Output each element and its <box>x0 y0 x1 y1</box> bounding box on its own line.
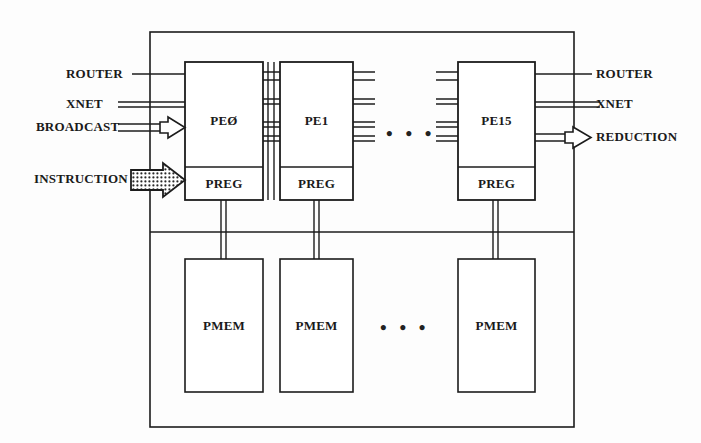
pe15-left-stubs <box>436 72 458 141</box>
preg-to-pmem-bus-0 <box>221 200 226 259</box>
instruction-in-label: INSTRUCTION <box>34 171 128 187</box>
pmem-15-label: PMEM <box>458 318 535 334</box>
pmem-1-label: PMEM <box>280 318 353 334</box>
router-out-label: ROUTER <box>596 66 653 82</box>
pe-0-label: PEØ <box>185 113 263 129</box>
pe1-right-stubs <box>353 72 375 141</box>
pe-15-preg-label: PREG <box>458 176 535 192</box>
pe0-pe1-interconnect <box>263 62 280 200</box>
xnet-in-label: XNET <box>66 96 103 112</box>
reduction-out-arrowhead <box>565 127 591 148</box>
preg-to-pmem-bus-15 <box>493 200 498 259</box>
xnet-out-label: XNET <box>596 96 633 112</box>
pmem-row-ellipsis: • • • <box>380 318 429 337</box>
xnet-out-line <box>535 102 600 107</box>
preg-to-pmem-bus-1 <box>314 200 319 259</box>
router-in-label: ROUTER <box>66 66 123 82</box>
pe-1-preg-label: PREG <box>280 176 353 192</box>
reduction-out-label: REDUCTION <box>596 129 677 145</box>
xnet-in-line <box>118 102 185 107</box>
instruction-in-block-arrow <box>131 163 185 197</box>
pe-row-ellipsis: • • • <box>386 124 435 143</box>
broadcast-in-label: BROADCAST <box>36 119 119 135</box>
pe-15-label: PE15 <box>458 113 535 129</box>
diagram-canvas: ROUTER XNET BROADCAST INSTRUCTION ROUTER… <box>0 0 701 443</box>
broadcast-in-arrowhead <box>160 117 185 138</box>
pe-0-preg-label: PREG <box>185 176 263 192</box>
pe-1-label: PE1 <box>280 113 353 129</box>
pmem-0-label: PMEM <box>185 318 263 334</box>
